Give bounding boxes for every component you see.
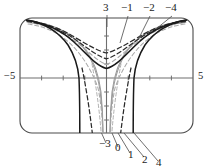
label-bottom-4: 4 — [156, 157, 162, 168]
label-bottom-0: 0 — [115, 142, 121, 153]
label-top-3: 3 — [103, 2, 109, 13]
label-top-m2: −2 — [143, 2, 155, 13]
label-bottom-1: 1 — [128, 149, 134, 160]
label-bottom-m3: −3 — [99, 138, 111, 149]
label-bottom-2: 2 — [142, 154, 148, 165]
label-top-m1: −1 — [121, 2, 133, 13]
x-axis-label-right: 5 — [198, 71, 203, 82]
x-axis-label-left: −5 — [4, 71, 15, 82]
figure-container: 3 −1 −2 −4 −3 0 1 2 4 −5 5 — [0, 0, 212, 168]
label-top-m4: −4 — [165, 2, 177, 13]
leader-2 — [124, 133, 144, 157]
